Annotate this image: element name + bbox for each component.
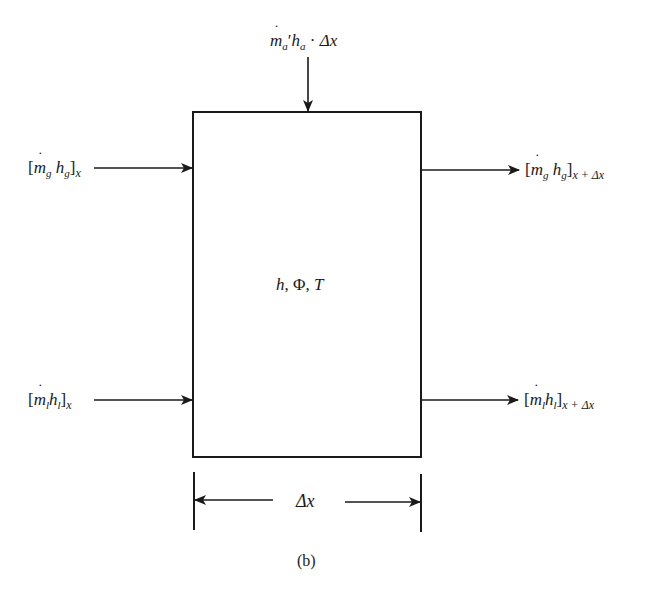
temperature-symbol: T bbox=[314, 275, 323, 294]
subscript: x bbox=[75, 166, 80, 180]
mass-flow-symbol: m bbox=[34, 391, 46, 408]
top-input-label: ma′ha · Δx bbox=[270, 32, 337, 49]
subscript: g bbox=[46, 167, 52, 179]
multiply-dot: · bbox=[306, 31, 320, 50]
diagram-canvas bbox=[0, 0, 653, 596]
phi-symbol: Φ bbox=[293, 275, 305, 294]
enthalpy-symbol: h bbox=[553, 160, 562, 179]
delta-x: Δx bbox=[296, 491, 315, 511]
separator: , bbox=[305, 275, 314, 294]
enthalpy-symbol: h bbox=[56, 158, 65, 177]
figure-caption: (b) bbox=[297, 553, 316, 569]
enthalpy-symbol: h bbox=[292, 31, 301, 50]
separator: , bbox=[285, 275, 294, 294]
mass-flow-symbol: m bbox=[34, 159, 46, 176]
subscript: x + Δx bbox=[572, 168, 604, 182]
mass-flow-symbol: m bbox=[531, 161, 543, 178]
mass-flow-symbol: m bbox=[270, 32, 282, 49]
enthalpy-symbol: h bbox=[49, 390, 58, 409]
gas-outflow-label: [mg hg]x + Δx bbox=[525, 161, 604, 178]
liquid-outflow-label: [mlhl]x + Δx bbox=[524, 391, 594, 408]
subscript: g bbox=[543, 169, 549, 181]
delta-x: Δx bbox=[320, 31, 338, 50]
dimension-label: Δx bbox=[296, 492, 315, 510]
gas-inflow-label: [mg hg]x bbox=[28, 159, 81, 176]
subscript: x + Δx bbox=[562, 398, 594, 412]
mass-flow-symbol: m bbox=[530, 391, 542, 408]
control-volume-properties-label: h, Φ, T bbox=[276, 276, 323, 293]
enthalpy-symbol: h bbox=[545, 390, 554, 409]
enthalpy-symbol: h bbox=[276, 275, 285, 294]
subscript: x bbox=[66, 398, 71, 412]
liquid-inflow-label: [mlhl]x bbox=[28, 391, 72, 408]
